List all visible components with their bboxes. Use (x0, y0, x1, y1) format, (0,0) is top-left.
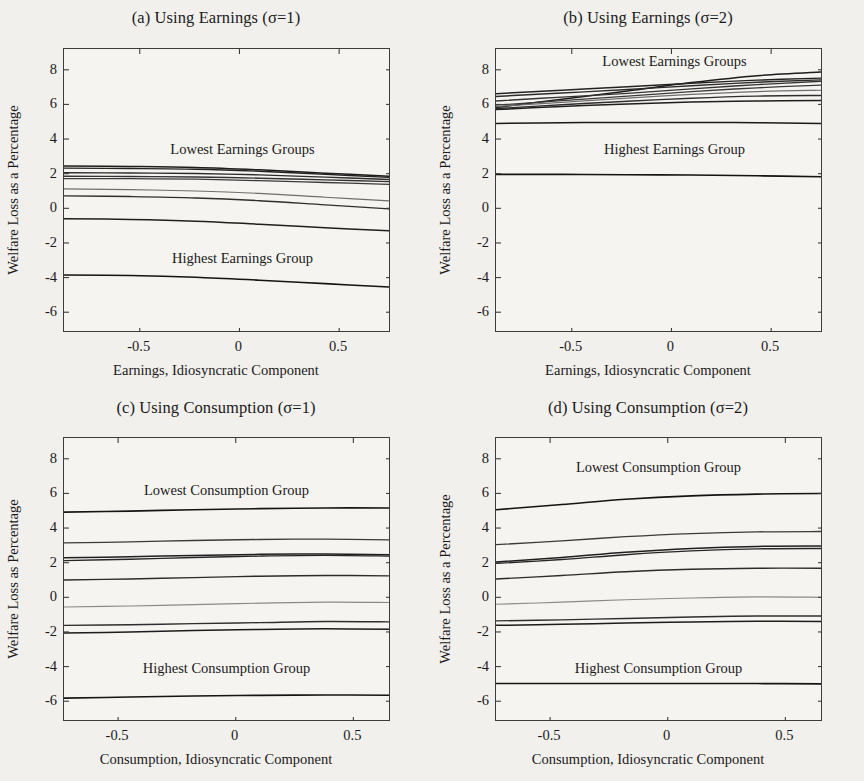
y-tick-label: -2 (459, 622, 489, 639)
y-tick-label: -4 (459, 268, 489, 285)
panel-d: (d) Using Consumption (σ=2) -6-4-202468-… (432, 390, 864, 781)
y-tick-label: 6 (27, 484, 57, 501)
plot-area-panel-b (495, 48, 822, 332)
x-tick-label: 0 (231, 727, 238, 744)
y-tick-label: 6 (459, 95, 489, 112)
x-tick-label: 0 (663, 727, 670, 744)
y-tick-label: -6 (27, 692, 57, 709)
x-tick-label: -0.5 (127, 338, 150, 355)
x-tick-label: -0.5 (106, 727, 129, 744)
y-tick-label: -2 (459, 233, 489, 250)
x-axis-label: Earnings, Idiosyncratic Component (432, 362, 864, 379)
panel-c: (c) Using Consumption (σ=1) -6-4-202468-… (0, 390, 432, 781)
curve-annotation: Lowest Earnings Groups (170, 141, 314, 158)
x-tick-label: 0.5 (343, 727, 361, 744)
y-tick-label: 8 (27, 60, 57, 77)
plot-area-panel-c (63, 437, 390, 721)
y-axis-label: Welfare Loss as Percentage (5, 499, 22, 658)
y-tick-label: 6 (27, 95, 57, 112)
y-tick-label: 8 (459, 449, 489, 466)
y-tick-label: 6 (459, 484, 489, 501)
y-tick-label: 4 (459, 130, 489, 147)
y-tick-label: -2 (27, 622, 57, 639)
y-tick-label: 0 (459, 199, 489, 216)
tick-layer (64, 49, 390, 332)
y-tick-label: -6 (27, 303, 57, 320)
y-tick-label: 4 (27, 130, 57, 147)
x-tick-label: 0.5 (775, 727, 793, 744)
curve-annotation: Lowest Earnings Groups (602, 53, 746, 70)
y-axis-label: Welfare Loss as a Percentage (437, 105, 454, 275)
x-axis-label: Earnings, Idiosyncratic Component (0, 362, 432, 379)
panel-b-title: (b) Using Earnings (σ=2) (432, 8, 864, 28)
y-axis-label: Welfare Loss as a Percentage (437, 494, 454, 664)
y-tick-label: 4 (459, 519, 489, 536)
curve-annotation: Lowest Consumption Group (144, 482, 309, 499)
y-tick-label: 0 (27, 199, 57, 216)
curve-annotation: Highest Consumption Group (575, 660, 743, 677)
panel-a-title: (a) Using Earnings (σ=1) (0, 8, 432, 28)
tick-layer (496, 438, 822, 721)
y-tick-label: 2 (459, 553, 489, 570)
panel-a: (a) Using Earnings (σ=1) -6-4-202468-0.5… (0, 0, 432, 390)
plot-area-panel-d (495, 437, 822, 721)
x-tick-label: -0.5 (559, 338, 582, 355)
y-tick-label: 8 (27, 449, 57, 466)
x-tick-label: 0 (235, 338, 242, 355)
x-axis-label: Consumption, Idiosyncratic Component (0, 751, 432, 768)
y-axis-label: Welfare Loss as a Percentage (5, 105, 22, 275)
x-tick-label: 0.5 (761, 338, 779, 355)
curve-annotation: Highest Earnings Group (172, 250, 313, 267)
y-tick-label: -6 (459, 303, 489, 320)
tick-layer (64, 438, 390, 721)
y-tick-label: -4 (27, 268, 57, 285)
x-tick-label: 0 (667, 338, 674, 355)
x-axis-label: Consumption, Idiosyncratic Component (432, 751, 864, 768)
y-tick-label: 2 (27, 164, 57, 181)
y-tick-label: -4 (459, 657, 489, 674)
y-tick-label: 2 (27, 553, 57, 570)
y-tick-label: -4 (27, 657, 57, 674)
curve-annotation: Highest Consumption Group (143, 660, 311, 677)
tick-layer (496, 49, 822, 332)
y-tick-label: 4 (27, 519, 57, 536)
panel-d-title: (d) Using Consumption (σ=2) (432, 398, 864, 418)
plot-area-panel-a (63, 48, 390, 332)
panel-c-title: (c) Using Consumption (σ=1) (0, 398, 432, 418)
x-tick-label: 0.5 (329, 338, 347, 355)
curve-annotation: Lowest Consumption Group (576, 459, 741, 476)
y-tick-label: -6 (459, 692, 489, 709)
panel-b: (b) Using Earnings (σ=2) -6-4-202468-0.5… (432, 0, 864, 390)
y-tick-label: 8 (459, 60, 489, 77)
curve-annotation: Highest Earnings Group (604, 141, 745, 158)
x-tick-label: -0.5 (538, 727, 561, 744)
y-tick-label: 0 (459, 588, 489, 605)
y-tick-label: -2 (27, 233, 57, 250)
figure-grid: (a) Using Earnings (σ=1) -6-4-202468-0.5… (0, 0, 864, 781)
y-tick-label: 2 (459, 164, 489, 181)
y-tick-label: 0 (27, 588, 57, 605)
